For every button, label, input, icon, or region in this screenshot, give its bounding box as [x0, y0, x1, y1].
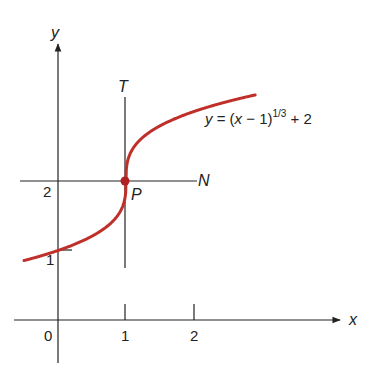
x-axis-label: x	[348, 311, 358, 328]
x-tick-label-2: 2	[190, 327, 198, 344]
point-p	[121, 177, 130, 186]
normal-label: N	[198, 172, 210, 189]
x-tick-label-1: 1	[121, 327, 129, 344]
tangent-label: T	[118, 78, 129, 95]
y-tick-label-1: 1	[46, 251, 54, 268]
cube-root-graph: y x T N P 0 1 2 1 2 y = (x − 1)1/3 + 2	[0, 0, 383, 376]
equation-label: y = (x − 1)1/3 + 2	[204, 108, 312, 127]
x-tick-label-0: 0	[44, 327, 52, 344]
y-tick-label-2: 2	[43, 183, 51, 200]
y-axis-label: y	[50, 24, 60, 41]
point-label: P	[131, 186, 142, 203]
